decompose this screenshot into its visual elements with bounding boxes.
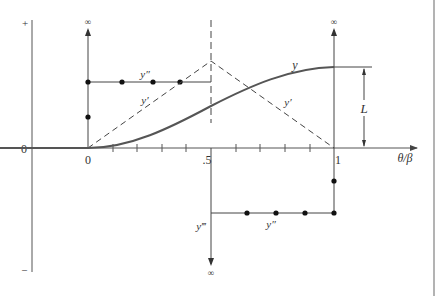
y-double-prime-top-label: y″ [139, 68, 150, 80]
y-prime-label-right: y′ [283, 96, 292, 108]
infinity-top-left: ∞ [85, 17, 91, 27]
l-dimension-label: L [359, 101, 367, 116]
up-arrow-1-icon [331, 28, 337, 36]
y-double-prime-bottom-dots [244, 178, 336, 215]
up-arrow-0-icon [85, 28, 91, 36]
tick-label-0: 0 [85, 153, 91, 167]
l-arrow-up-icon [362, 68, 366, 75]
y-prime-curve [88, 61, 334, 148]
y-triple-prime-label: y‴ [195, 220, 207, 232]
y-minus-label: – [21, 264, 28, 275]
down-arrow-half-icon [208, 258, 214, 266]
tick-label-1: 1 [335, 153, 341, 167]
cam-diagram: + 0 – θ/β 0 .5 1 ∞ ∞ ∞ y″ [0, 0, 441, 296]
x-axis-label: θ/β [397, 151, 412, 165]
infinity-bottom-middle: ∞ [208, 268, 214, 278]
y-prime-label-left: y′ [140, 94, 149, 106]
tick-label-half: .5 [203, 153, 212, 167]
y-label: y [291, 58, 298, 72]
y-double-prime-bottom-label: y″ [265, 218, 276, 230]
y-plus-label: + [22, 17, 28, 29]
infinity-top-right: ∞ [331, 17, 337, 27]
y-double-prime-top-dots [85, 79, 182, 119]
l-arrow-down-icon [362, 140, 366, 147]
